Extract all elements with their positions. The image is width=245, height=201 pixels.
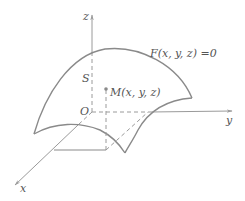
surface-diagram: z y x O S F(x, y, z) =0 M(x, y, z) (0, 0, 245, 201)
surface-equation-label: F(x, y, z) =0 (149, 47, 217, 60)
y-axis-label: y (225, 114, 233, 127)
x-axis-label: x (20, 182, 27, 195)
projection-lines (54, 90, 148, 150)
surface-outline (34, 48, 192, 153)
surface-region-label: S (82, 72, 90, 85)
point-m-marker (104, 87, 108, 91)
origin-label: O (80, 105, 89, 118)
x-axis (15, 112, 92, 185)
z-axis-label: z (82, 10, 89, 23)
y-axis (92, 111, 232, 112)
point-m-label: M(x, y, z) (109, 86, 161, 99)
